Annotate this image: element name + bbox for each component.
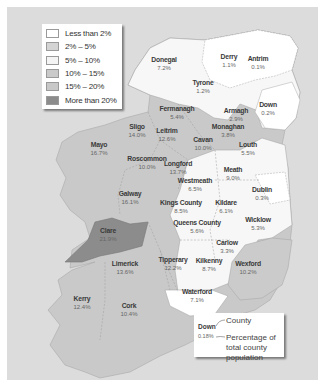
county-label-limerick: Limerick13.6%	[112, 261, 138, 275]
county-pct: 6.1%	[215, 208, 237, 214]
county-pct: 10.2%	[235, 269, 261, 275]
county-pct: 5.4%	[160, 114, 195, 120]
county-label-kildare: Kildare6.1%	[215, 200, 237, 214]
county-name: Longford	[164, 161, 192, 168]
legend-item: 2% – 5%	[46, 40, 119, 53]
county-name: Antrim	[248, 56, 269, 63]
county-name: Galway	[119, 191, 142, 198]
legend-swatch	[46, 56, 59, 65]
county-pct: 8.7%	[196, 266, 223, 272]
label-key: Down 0.18% County Percentage of total co…	[194, 313, 284, 357]
county-label-cork: Cork10.4%	[120, 303, 137, 317]
county-label-queens-county: Queens County5.6%	[173, 220, 221, 234]
county-name: Waterford	[182, 289, 212, 296]
legend-label: 15% – 20%	[65, 82, 104, 91]
county-pct: 3.8%	[212, 132, 244, 138]
county-label-galway: Galway16.1%	[119, 191, 142, 205]
county-name: Kilkenny	[196, 258, 223, 265]
legend-swatch	[46, 29, 59, 38]
key-example-pct: 0.18%	[198, 333, 214, 339]
county-label-wicklow: Wicklow5.3%	[245, 217, 271, 231]
legend-swatch	[46, 82, 59, 91]
key-pct-desc: Percentage of total county population	[226, 333, 284, 363]
county-name: Wicklow	[245, 217, 271, 224]
county-label-kings-county: Kings County8.5%	[160, 200, 202, 214]
county-label-waterford: Waterford7.1%	[182, 289, 212, 303]
county-pct: 0.1%	[248, 64, 269, 70]
county-pct: 7.2%	[151, 65, 176, 71]
county-name: Leitrim	[156, 128, 177, 135]
county-label-donegal: Donegal7.2%	[151, 57, 176, 71]
county-pct: 21.9%	[99, 236, 116, 242]
county-pct: 2.9%	[224, 116, 248, 122]
county-pct: 5.6%	[173, 228, 221, 234]
county-label-sligo: Sligo14.0%	[128, 124, 145, 138]
county-name: Tipperary	[158, 257, 187, 264]
county-name: Westmeath	[178, 178, 212, 185]
county-label-louth: Louth5.5%	[239, 142, 257, 156]
county-label-tipperary: Tipperary12.2%	[158, 257, 187, 271]
county-name: Fermanagh	[160, 106, 195, 113]
county-pct: 14.0%	[128, 132, 145, 138]
county-label-fermanagh: Fermanagh5.4%	[160, 106, 195, 120]
legend-item: Less than 2%	[46, 27, 119, 40]
county-name: Sligo	[128, 124, 145, 131]
county-pct: 16.7%	[90, 150, 107, 156]
legend-label: 2% – 5%	[65, 42, 96, 51]
county-label-down: Down0.2%	[259, 102, 277, 116]
legend-item: 5% – 10%	[46, 54, 119, 67]
county-pct: 5.5%	[239, 150, 257, 156]
key-county-desc: County	[226, 316, 251, 325]
county-label-leitrim: Leitrim12.6%	[156, 128, 177, 142]
county-pct: 13.7%	[164, 169, 192, 175]
county-pct: 13.6%	[112, 269, 138, 275]
legend-swatch	[46, 42, 59, 51]
county-pct: 8.5%	[160, 208, 202, 214]
county-pct: 10.4%	[120, 311, 137, 317]
legend-swatch	[46, 96, 59, 105]
legend-swatch	[46, 69, 59, 78]
county-name: Armagh	[224, 108, 248, 115]
county-label-antrim: Antrim0.1%	[248, 56, 269, 70]
county-pct: 12.2%	[158, 265, 187, 271]
county-name: Cork	[120, 303, 137, 310]
county-pct: 3.3%	[216, 248, 237, 254]
key-example-county: Down	[198, 323, 216, 330]
county-label-monaghan: Monaghan3.8%	[212, 124, 244, 138]
county-pct: 10.0%	[193, 145, 212, 151]
county-name: Down	[259, 102, 277, 109]
county-name: Tyrone	[193, 80, 214, 87]
county-pct: 6.5%	[178, 186, 212, 192]
county-name: Meath	[224, 167, 243, 174]
legend-label: 5% – 10%	[65, 56, 100, 65]
legend-item: 15% – 20%	[46, 80, 119, 93]
county-label-kerry: Kerry12.4%	[73, 296, 90, 310]
county-label-cavan: Cavan10.0%	[193, 137, 212, 151]
county-label-tyrone: Tyrone1.2%	[193, 80, 214, 94]
county-name: Kings County	[160, 200, 202, 207]
county-pct: 9.0%	[224, 175, 243, 181]
county-pct: 10.0%	[127, 164, 166, 170]
county-label-meath: Meath9.0%	[224, 167, 243, 181]
county-pct: 0.2%	[259, 110, 277, 116]
county-label-wexford: Wexford10.2%	[235, 261, 261, 275]
county-label-roscommon: Roscommon10.0%	[127, 156, 166, 170]
legend-item: 10% – 15%	[46, 67, 119, 80]
county-name: Monaghan	[212, 124, 244, 131]
county-pct: 7.1%	[182, 297, 212, 303]
county-pct: 1.1%	[221, 62, 238, 68]
county-name: Wexford	[235, 261, 261, 268]
county-pct: 16.1%	[119, 199, 142, 205]
legend-label: Less than 2%	[65, 29, 111, 38]
county-name: Louth	[239, 142, 257, 149]
county-name: Dublin	[252, 187, 272, 194]
county-name: Clare	[99, 228, 116, 235]
legend: Less than 2% 2% – 5% 5% – 10% 10% – 15% …	[42, 24, 122, 109]
county-label-carlow: Carlow3.3%	[216, 240, 237, 254]
county-pct: 12.4%	[73, 304, 90, 310]
county-name: Derry	[221, 54, 238, 61]
legend-label: More than 20%	[65, 96, 117, 105]
county-pct: 1.2%	[193, 88, 214, 94]
county-label-mayo: Mayo16.7%	[90, 142, 107, 156]
county-name: Carlow	[216, 240, 237, 247]
